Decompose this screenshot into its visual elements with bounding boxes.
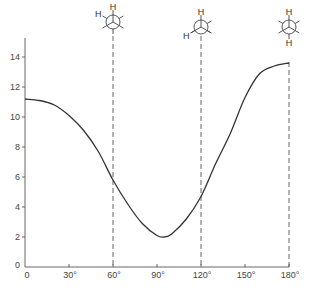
- newman-projection-120: HH: [183, 7, 211, 41]
- y-tick-label: 0: [15, 260, 20, 270]
- data-curve: [25, 63, 289, 237]
- newman-projections: HHHHHH: [95, 2, 299, 48]
- axes: 02468101214030°60°90°120°150°180°: [10, 38, 300, 280]
- hydrogen-label: H: [198, 7, 205, 17]
- hydrogen-label: H: [286, 7, 293, 17]
- y-tick-label: 10: [10, 112, 20, 122]
- x-tick-label: 150°: [237, 270, 256, 280]
- y-tick-label: 4: [15, 202, 20, 212]
- hydrogen-label: H: [183, 31, 190, 41]
- newman-projection-60: HH: [95, 2, 123, 34]
- hydrogen-label: H: [95, 9, 102, 19]
- karplus-chart: 02468101214030°60°90°120°150°180° HHHHHH: [0, 0, 316, 290]
- newman-projection-180: HH: [279, 7, 300, 48]
- x-tick-label: 120°: [193, 270, 212, 280]
- hydrogen-label: H: [286, 38, 293, 48]
- hydrogen-label: H: [110, 2, 117, 12]
- x-tick-label: 0: [24, 270, 29, 280]
- y-tick-label: 8: [15, 142, 20, 152]
- x-tick-label: 180°: [281, 270, 300, 280]
- x-tick-label: 30°: [63, 270, 77, 280]
- x-tick-label: 90°: [151, 270, 165, 280]
- x-tick-label: 60°: [107, 270, 121, 280]
- y-tick-label: 14: [10, 52, 20, 62]
- y-tick-label: 12: [10, 82, 20, 92]
- y-tick-label: 6: [15, 172, 20, 182]
- y-tick-label: 2: [15, 232, 20, 242]
